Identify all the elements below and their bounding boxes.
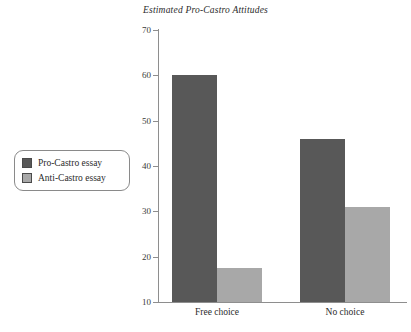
- y-axis-tick: [153, 302, 158, 303]
- bar-pro-castro: [172, 75, 217, 302]
- y-axis-tick-label: 40: [128, 161, 151, 171]
- y-axis-line: [158, 29, 159, 303]
- legend-swatch-icon: [22, 173, 32, 183]
- chart-legend: Pro-Castro essayAnti-Castro essay: [14, 150, 130, 191]
- legend-item-label: Anti-Castro essay: [38, 173, 106, 183]
- legend-item-label: Pro-Castro essay: [38, 158, 102, 168]
- bar-anti-castro: [217, 268, 262, 302]
- y-axis-tick-label: 50: [128, 116, 151, 126]
- x-axis-category-label: Free choice: [172, 307, 262, 317]
- bar-anti-castro: [345, 207, 390, 302]
- bar-pro-castro: [300, 139, 345, 302]
- chart-page: Estimated Pro-Castro Attitudes 102030405…: [0, 0, 411, 332]
- x-axis-category-label: No choice: [300, 307, 390, 317]
- y-axis-tick: [153, 166, 158, 167]
- y-axis-tick: [153, 121, 158, 122]
- y-axis-tick-label: 60: [128, 70, 151, 80]
- y-axis-tick: [153, 257, 158, 258]
- y-axis-tick-label: 70: [128, 25, 151, 35]
- y-axis-tick-label: 10: [128, 297, 151, 307]
- legend-swatch-icon: [22, 158, 32, 168]
- legend-item: Pro-Castro essay: [22, 155, 122, 170]
- y-axis-tick: [153, 211, 158, 212]
- page-title: Estimated Pro-Castro Attitudes: [0, 5, 411, 15]
- legend-item: Anti-Castro essay: [22, 170, 122, 185]
- y-axis-tick: [153, 75, 158, 76]
- x-axis-line: [158, 302, 407, 303]
- y-axis-tick-label: 30: [128, 206, 151, 216]
- y-axis-tick-label: 20: [128, 252, 151, 262]
- y-axis-tick: [153, 30, 158, 31]
